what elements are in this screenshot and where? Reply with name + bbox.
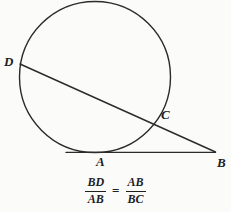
point-label-c: C xyxy=(161,108,170,121)
geometry-figure-page: D C A B BD AB = AB BC xyxy=(0,0,231,212)
point-label-a: A xyxy=(96,155,105,168)
secant-line-DB xyxy=(20,64,216,152)
point-label-d: D xyxy=(4,55,13,68)
fraction-right: AB BC xyxy=(126,176,146,207)
fraction-left: BD AB xyxy=(85,176,106,207)
fraction-right-numerator: AB xyxy=(126,176,146,191)
circle-shape xyxy=(20,2,171,153)
proportion-formula: BD AB = AB BC xyxy=(0,176,231,207)
fraction-left-denominator: AB xyxy=(86,192,106,207)
fraction-right-denominator: BC xyxy=(126,192,146,207)
fraction-left-numerator: BD xyxy=(85,176,106,191)
point-label-b: B xyxy=(217,156,226,169)
equals-sign: = xyxy=(111,183,120,199)
